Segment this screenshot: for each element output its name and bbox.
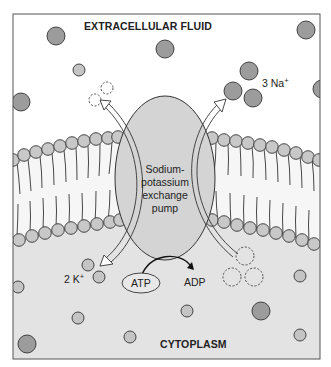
pump-label: Sodium- potassium exchange pump xyxy=(125,163,205,215)
potassium-charge: + xyxy=(80,272,84,281)
sodium-ion xyxy=(47,27,65,45)
sodium-symbol: Na xyxy=(271,77,284,89)
sodium-ion xyxy=(224,82,242,100)
sodium-ion xyxy=(313,80,331,98)
sodium-ion xyxy=(156,40,174,58)
potassium-symbol: K xyxy=(73,273,80,285)
sodium-ion xyxy=(297,21,315,39)
sodium-count: 3 xyxy=(262,77,268,89)
potassium-ion xyxy=(181,305,193,317)
pump-label-line-4: pump xyxy=(125,202,205,215)
potassium-ion xyxy=(12,281,24,293)
potassium-count: 2 xyxy=(64,273,70,285)
pump-label-line-3: exchange xyxy=(125,189,205,202)
potassium-ion xyxy=(93,271,105,283)
sodium-ion xyxy=(12,93,30,111)
potassium-ion xyxy=(294,270,306,282)
potassium-ion xyxy=(124,331,136,343)
potassium-ion xyxy=(82,259,94,271)
cytoplasm-label: CYTOPLASM xyxy=(160,338,227,350)
potassium-ion xyxy=(73,64,85,76)
sodium-ion xyxy=(18,335,36,353)
potassium-ion xyxy=(72,312,84,324)
sodium-charge: + xyxy=(284,76,288,85)
extracellular-fluid-label: EXTRACELLULAR FLUID xyxy=(84,20,212,32)
sodium-ion xyxy=(240,62,258,80)
pump-label-line-1: Sodium- xyxy=(125,163,205,176)
sodium-ion xyxy=(244,89,262,107)
pump-label-line-2: potassium xyxy=(125,176,205,189)
sodium-ion xyxy=(252,302,270,320)
sodium-ion-label: 3 Na+ xyxy=(262,76,289,89)
adp-label: ADP xyxy=(184,276,206,288)
atp-label: ATP xyxy=(131,277,151,289)
potassium-ion-label: 2 K+ xyxy=(64,272,84,285)
potassium-ion xyxy=(294,329,306,341)
